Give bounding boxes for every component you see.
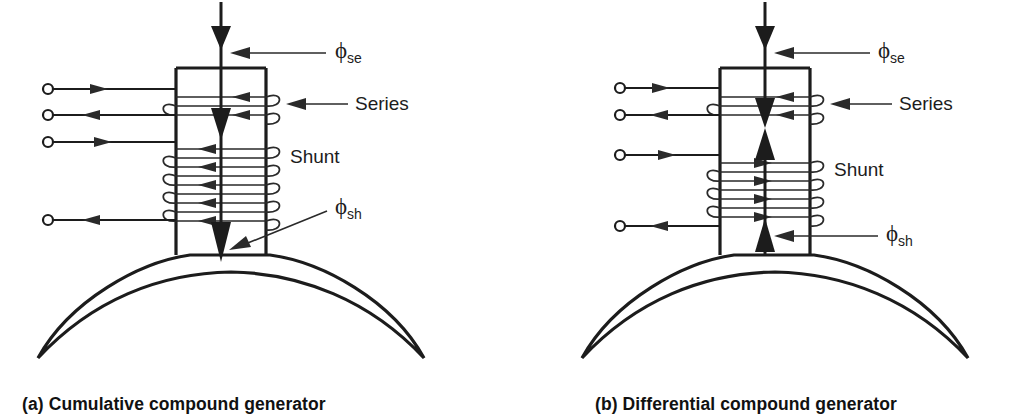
phi-se-symbol-a: ϕ: [335, 38, 347, 63]
terminal-dot[interactable]: [43, 215, 53, 225]
phi-se-subscript-a: se: [347, 50, 362, 66]
terminals-a: [43, 84, 176, 225]
phi-sh-symbol-a: ϕ: [335, 194, 347, 219]
series-flux-arrow-mid-a: [211, 108, 231, 140]
pole-shoe-a: [38, 255, 424, 358]
terminal-dot[interactable]: [43, 137, 53, 147]
shunt-label-b: Shunt: [834, 159, 884, 180]
terminal-dot[interactable]: [43, 110, 53, 120]
terminal-dot[interactable]: [615, 150, 625, 160]
terminals-b: [615, 83, 720, 231]
caption-panel-b: (b) Differential compound generator: [595, 394, 897, 415]
leader-phi-se-a: [230, 47, 326, 59]
series-flux-arrow-b: [755, 26, 775, 50]
phi-sh-subscript-a: sh: [347, 206, 362, 222]
diagram-differential-compound-generator: ϕ se Series Shunt ϕ sh: [560, 0, 1022, 380]
flux-path-a: [211, 2, 231, 262]
terminal-dot[interactable]: [615, 221, 625, 231]
shunt-flux-arrow-b: [755, 218, 775, 252]
phi-se-subscript-b: se: [890, 50, 905, 66]
series-flux-arrow-a: [211, 26, 231, 50]
leader-series-b: [830, 98, 892, 110]
pole-shoe-b: [582, 255, 968, 358]
phi-se-symbol-b: ϕ: [878, 38, 890, 63]
series-label-b: Series: [899, 93, 953, 114]
diagram-cumulative-compound-generator: ϕ se Series Shunt ϕ sh: [0, 0, 520, 380]
compound-generator-figure: ϕ se Series Shunt ϕ sh: [0, 0, 1022, 419]
terminal-dot[interactable]: [615, 110, 625, 120]
series-flux-arrow-mid-b: [755, 98, 775, 128]
leader-phi-se-b: [774, 47, 870, 59]
series-label-a: Series: [355, 93, 409, 114]
phi-sh-subscript-b: sh: [898, 233, 913, 249]
leader-phi-sh-b: [774, 230, 878, 242]
terminal-dot[interactable]: [615, 83, 625, 93]
leader-series-a: [286, 98, 348, 110]
terminal-dot[interactable]: [43, 84, 53, 94]
shunt-flux-arrow-up-mid-b: [755, 128, 775, 160]
phi-sh-symbol-b: ϕ: [886, 221, 898, 246]
leader-phi-sh-a: [229, 211, 327, 250]
shunt-label-a: Shunt: [290, 146, 340, 167]
caption-panel-a: (a) Cumulative compound generator: [22, 394, 326, 415]
